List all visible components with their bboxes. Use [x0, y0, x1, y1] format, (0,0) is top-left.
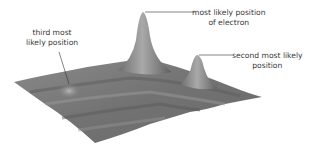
primary-label-line2: of electron: [192, 18, 266, 28]
primary-label: most likely position of electron: [192, 8, 266, 28]
probability-surface-diagram: [0, 0, 316, 153]
secondary-label: second most likely position: [232, 51, 303, 71]
third-peak: [57, 83, 81, 99]
primary-label-line1: most likely position: [192, 8, 266, 18]
tertiary-label-line1: third most: [26, 28, 78, 38]
secondary-label-line1: second most likely: [232, 51, 303, 61]
secondary-label-line2: position: [232, 61, 303, 71]
tertiary-label: third most likely position: [26, 28, 78, 48]
tertiary-label-line2: likely position: [26, 38, 78, 48]
